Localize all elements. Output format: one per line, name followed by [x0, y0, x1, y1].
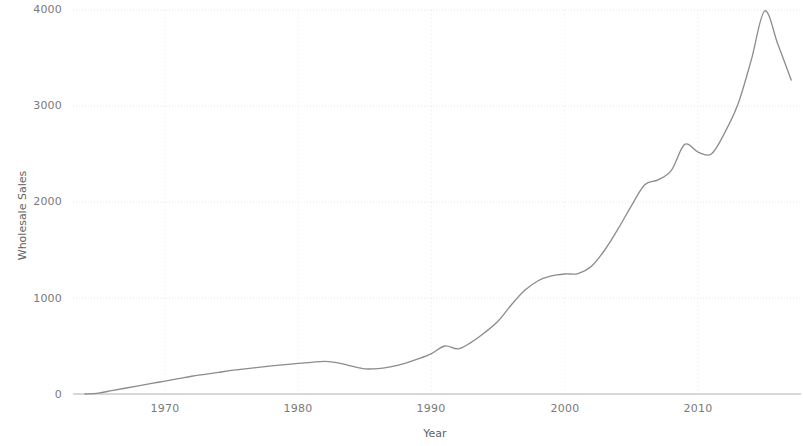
x-tick-label-2000: 2000 — [535, 402, 595, 415]
x-axis-title: Year — [405, 427, 465, 440]
x-tick-label-2010: 2010 — [668, 402, 728, 415]
x-tick-label-1980: 1980 — [268, 402, 328, 415]
plot-area — [0, 0, 803, 446]
y-axis-title: Wholesale Sales — [16, 156, 29, 276]
wholesale-sales-line-chart: 0 1000 2000 3000 4000 1970 1980 1990 200… — [0, 0, 803, 446]
x-tick-label-1990: 1990 — [401, 402, 461, 415]
x-tick-label-1970: 1970 — [135, 402, 195, 415]
y-tick-label-4000: 4000 — [18, 3, 62, 16]
horizontal-gridlines — [73, 10, 801, 394]
y-tick-label-0: 0 — [18, 388, 62, 401]
y-tick-label-3000: 3000 — [18, 99, 62, 112]
y-tick-label-1000: 1000 — [18, 292, 62, 305]
